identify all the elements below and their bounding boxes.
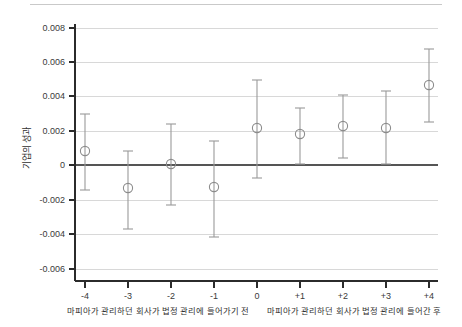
data-point-group [338, 95, 348, 158]
y-tick-label: -0.004 [39, 229, 65, 239]
y-axis-title: 기업의 성과 [22, 127, 32, 170]
x-tick-label: +3 [381, 291, 391, 301]
y-tick-label: 0.004 [42, 91, 65, 101]
y-tick-label: 0 [60, 160, 65, 170]
x-tick-label: -1 [210, 291, 218, 301]
x-tick-label: +4 [424, 291, 434, 301]
x-tick-label: -2 [167, 291, 175, 301]
y-tick-label: -0.006 [39, 264, 65, 274]
x-axis-caption-after: 마피아가 관리하던 회사가 법정 관리에 들어간 후 [267, 306, 441, 316]
x-tick-label: +1 [295, 291, 305, 301]
y-tick-label: 0.008 [42, 23, 65, 33]
chart-figure: 0.008 0.006 0.004 0.002 0 -0.002 -0.004 … [0, 0, 462, 327]
x-tick-label: -4 [81, 291, 89, 301]
y-tick-label: 0.006 [42, 57, 65, 67]
data-point-group [123, 151, 133, 229]
y-tick-label: 0.002 [42, 126, 65, 136]
x-tick-label: +2 [338, 291, 348, 301]
x-tickmarks [85, 281, 429, 288]
data-point-group [424, 49, 434, 122]
x-tick-labels: -4 -3 -2 -1 0 +1 +2 +3 +4 [81, 291, 434, 301]
data-point-group [252, 80, 262, 178]
y-tick-label: -0.002 [39, 195, 65, 205]
data-point-group [381, 91, 391, 164]
error-bar-plot: 0.008 0.006 0.004 0.002 0 -0.002 -0.004 … [0, 0, 462, 327]
x-axis-caption-before: 마피아가 관리하던 회사가 법정 관리에 들어가기 전 [67, 306, 249, 316]
data-point-group [209, 141, 219, 237]
x-tick-label: -3 [124, 291, 132, 301]
data-point-group [80, 114, 90, 190]
x-tick-label: 0 [254, 291, 259, 301]
y-tickmarks [69, 28, 75, 269]
data-point-group [295, 108, 305, 164]
y-tick-labels: 0.008 0.006 0.004 0.002 0 -0.002 -0.004 … [39, 23, 65, 274]
